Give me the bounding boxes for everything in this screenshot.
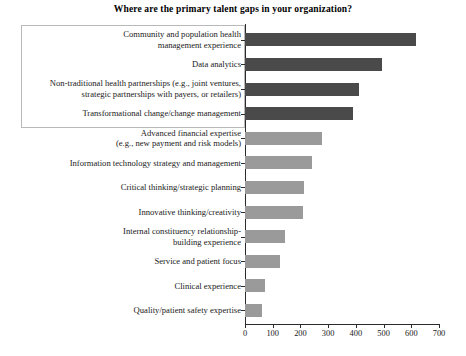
x-axis-tick-label: 0 [243,329,247,338]
category-label-line: Advanced financial expertise [23,128,241,139]
category-label-line: Community and population health [23,29,241,40]
x-axis-tick [328,324,329,328]
x-axis-tick [245,324,246,328]
category-label-line: Data analytics [23,59,241,70]
category-label-line: (e.g., new payment and risk models) [23,138,241,149]
category-label-line: Innovative thinking/creativity [23,207,241,218]
category-label: Quality/patient safety expertise [23,305,245,316]
x-axis-tick [439,324,440,328]
bar[interactable] [245,304,262,317]
x-axis-tick [356,324,357,328]
x-axis-tick-label: 200 [294,329,307,338]
chart-row: Transformational change/change managemen… [0,101,466,126]
category-label: Transformational change/change managemen… [23,108,245,119]
bar[interactable] [245,156,312,169]
x-axis-line [245,324,439,325]
category-label: Clinical experience [23,281,245,292]
bar[interactable] [245,206,303,219]
x-axis-tick-label: 400 [350,329,363,338]
chart-row: Information technology strategy and mana… [0,151,466,176]
bar[interactable] [245,83,359,96]
category-label: Information technology strategy and mana… [23,158,245,169]
bar[interactable] [245,132,322,145]
x-axis-tick [273,324,274,328]
category-label-line: Critical thinking/strategic planning [23,182,241,193]
category-label-line: Non-traditional health partnerships (e.g… [23,78,241,89]
bar[interactable] [245,107,353,120]
category-label-line: Information technology strategy and mana… [23,158,241,169]
bar[interactable] [245,255,280,268]
x-axis-tick-label: 700 [433,329,446,338]
chart-row: Data analytics [0,52,466,77]
category-label: Data analytics [23,59,245,70]
x-axis-tick [411,324,412,328]
bar[interactable] [245,279,265,292]
x-axis-tick-label: 300 [322,329,335,338]
category-label-line: Internal constituency relationship- [23,226,241,237]
category-label: Internal constituency relationship-build… [23,226,245,247]
chart-page: Where are the primary talent gaps in you… [0,0,466,356]
x-axis-tick [384,324,385,328]
category-label: Service and patient focus [23,256,245,267]
page-title: Where are the primary talent gaps in you… [0,4,466,14]
chart-row: Internal constituency relationship-build… [0,224,466,249]
category-label-line: Transformational change/change managemen… [23,108,241,119]
category-label-line: building experience [23,237,241,248]
category-label-line: strategic partnerships with payers, or r… [23,89,241,100]
x-axis-tick [300,324,301,328]
chart-row: Service and patient focus [0,249,466,274]
category-label-line: management experience [23,40,241,51]
chart-row: Critical thinking/strategic planning [0,175,466,200]
category-label: Critical thinking/strategic planning [23,182,245,193]
category-label: Non-traditional health partnerships (e.g… [23,78,245,99]
bar[interactable] [245,58,382,71]
chart-row: Non-traditional health partnerships (e.g… [0,77,466,102]
bar[interactable] [245,230,285,243]
category-label: Community and population healthmanagemen… [23,29,245,50]
category-label: Innovative thinking/creativity [23,207,245,218]
x-axis-tick-label: 100 [266,329,279,338]
chart-row: Quality/patient safety expertise [0,298,466,323]
x-axis-tick-label: 500 [377,329,390,338]
plot-area: Community and population healthmanagemen… [0,24,466,332]
category-label: Advanced financial expertise(e.g., new p… [23,128,245,149]
chart-row: Clinical experience [0,274,466,299]
chart-row: Innovative thinking/creativity [0,200,466,225]
category-label-line: Quality/patient safety expertise [23,305,241,316]
bar[interactable] [245,181,304,194]
chart-row: Advanced financial expertise(e.g., new p… [0,126,466,151]
x-axis-tick-label: 600 [405,329,418,338]
bar[interactable] [245,33,416,46]
category-label-line: Clinical experience [23,281,241,292]
category-label-line: Service and patient focus [23,256,241,267]
